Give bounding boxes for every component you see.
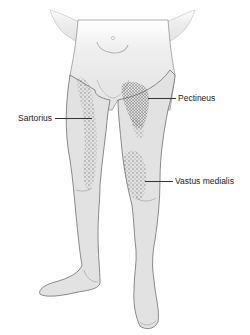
legs-illustration xyxy=(0,0,250,335)
vastus-medialis-leader-line xyxy=(145,181,173,182)
pectineus-label: Pectineus xyxy=(178,93,215,103)
left-arm-shape xyxy=(50,10,80,42)
pectineus-leader-line xyxy=(148,98,176,99)
left-leg-shape xyxy=(40,75,110,296)
anatomy-figure: Pectineus Sartorius Vastus medialis xyxy=(0,0,250,335)
vastus-medialis-label: Vastus medialis xyxy=(175,176,234,186)
sartorius-label: Sartorius xyxy=(18,113,52,123)
right-arm-shape xyxy=(166,10,195,42)
sartorius-leader-line xyxy=(55,118,92,119)
